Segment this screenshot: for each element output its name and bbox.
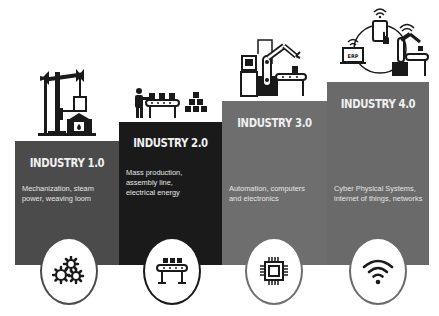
industry-3-icon-badge: [245, 237, 303, 305]
conveyor-belt-icon: [155, 257, 189, 285]
industry-1-description: Mechanization, steam power, weaving loom: [22, 184, 100, 204]
worker-assembly-line-icon: [132, 88, 216, 120]
industry-4-title: INDUSTRY 4.0: [338, 96, 418, 111]
industry-1-title: INDUSTRY 1.0: [26, 155, 107, 170]
microchip-icon: [260, 256, 288, 286]
connected-erp-phone-robot-icon: ERP: [340, 4, 430, 80]
industry-2-title: INDUSTRY 2.0: [130, 135, 210, 150]
industry-3-description: Automation, computers and electronics: [229, 184, 315, 204]
steam-hammer-furnace-icon: [36, 66, 98, 138]
gears-icon: [52, 256, 86, 286]
erp-label: ERP: [348, 53, 359, 59]
computer-robot-arm-icon: [240, 38, 310, 98]
industry-2-description: Mass production, assembly line, electric…: [126, 168, 188, 198]
industry-evolution-diagram: ERP INDUSTRY 1.0 Mechanization, steam po…: [0, 0, 439, 316]
industry-2-icon-badge: [143, 237, 201, 305]
industry-3-title: INDUSTRY 3.0: [234, 115, 316, 130]
industry-4-description: Cyber Physical Systems, internet of thin…: [334, 184, 426, 204]
industry-1-icon-badge: [40, 237, 98, 305]
industry-4-icon-badge: [349, 237, 407, 305]
wifi-icon: [362, 257, 394, 285]
